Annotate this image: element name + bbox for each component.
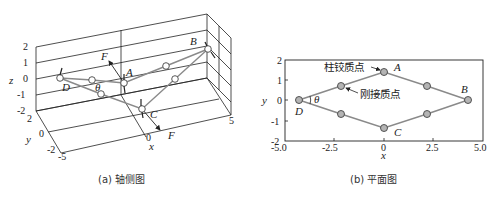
z-axis-label: z <box>8 74 14 86</box>
node-label-A: A <box>393 61 401 73</box>
plan-plot: 2 1 0 -1 -2 y -5.0 -2.5 0 2.5 5.0 x θ <box>261 55 487 185</box>
y-axis-label: y <box>261 94 267 106</box>
node-label-A: A <box>125 66 133 78</box>
z-tick-neg1: -1 <box>17 89 25 100</box>
angle-label-theta: θ <box>95 81 101 93</box>
angle-label-theta: θ <box>314 93 320 105</box>
node-label-B: B <box>190 35 197 47</box>
x-tick-2-5: 2.5 <box>426 142 439 153</box>
x-tick-neg5: -5 <box>58 151 66 162</box>
z-tick-2: 2 <box>23 41 28 52</box>
node-label-C: C <box>394 126 402 138</box>
z-tick-0: 0 <box>23 73 28 84</box>
force-label-top: F <box>100 50 108 62</box>
annotation-arrow-hinge <box>371 67 380 70</box>
y-tick-1: 1 <box>277 75 282 86</box>
force-label-bottom: F <box>167 129 175 141</box>
annotation-rigid-node: 刚接质点 <box>360 88 400 100</box>
y-tick-neg1: -1 <box>271 116 279 127</box>
y-tick-neg2: -2 <box>47 144 55 155</box>
x-tick-neg2-5: -2.5 <box>322 142 338 153</box>
figure-canvas: 2 1 0 -1 -2 z 2 0 -2 y -5 0 5 x F F <box>0 0 500 198</box>
caption-a: (a) 轴侧图 <box>98 173 145 185</box>
y-axis-label: y <box>25 133 31 145</box>
y-tick-0: 0 <box>277 95 282 106</box>
annotation-hinge-node: 柱铰质点 <box>324 61 364 73</box>
node-label-C: C <box>150 108 158 120</box>
node-label-B: B <box>461 83 468 95</box>
node-label-D: D <box>294 105 303 117</box>
caption-b: (b) 平面图 <box>350 174 397 185</box>
x-tick-neg5: -5.0 <box>271 142 287 153</box>
z-tick-neg2: -2 <box>17 105 25 116</box>
structure-edges <box>60 49 208 109</box>
z-tick-1: 1 <box>23 57 28 68</box>
rhombus-edges <box>299 72 468 128</box>
y-tick-2: 2 <box>277 55 282 66</box>
y-tick-0: 0 <box>39 128 44 139</box>
annotation-arrow-rigid <box>346 88 358 93</box>
x-axis-label: x <box>148 140 154 152</box>
x-tick-5: 5.0 <box>474 142 487 153</box>
axonometric-plot: 2 1 0 -1 -2 z 2 0 -2 y -5 0 5 x F F <box>8 14 234 185</box>
theta-arc <box>310 96 311 104</box>
x-tick-5: 5 <box>229 115 234 126</box>
x-axis-label: x <box>380 149 386 161</box>
nodes-2d <box>296 69 472 132</box>
y-tick-2: 2 <box>27 113 32 124</box>
node-label-D: D <box>61 81 70 93</box>
tick-marks <box>285 80 433 141</box>
